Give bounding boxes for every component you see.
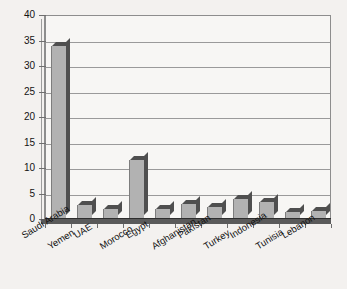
y-axis-tick-label: 35 <box>24 36 35 46</box>
bar-side-face <box>248 191 252 215</box>
bar[interactable] <box>129 160 144 219</box>
bar-side-face <box>170 201 174 215</box>
y-axis-tick-label: 10 <box>24 163 35 173</box>
bar-side-face <box>118 201 122 215</box>
y-axis-tick-label: 5 <box>29 189 35 199</box>
bar-slot <box>51 15 65 219</box>
bar-slot <box>155 15 169 219</box>
y-axis-tick-label: 25 <box>24 87 35 97</box>
bar-side-face <box>92 197 96 215</box>
bar-chart: 0510152025303540 Saudi ArabiaYemenUAEMor… <box>0 0 347 289</box>
bar-slot <box>233 15 247 219</box>
bar-slot <box>181 15 195 219</box>
bar-slot <box>207 15 221 219</box>
bar-side-face <box>144 152 148 215</box>
y-axis-tick-label: 40 <box>24 10 35 20</box>
bar-side-face <box>300 204 304 215</box>
bar-side-face <box>326 203 330 215</box>
bar-slot <box>77 15 91 219</box>
bar[interactable] <box>77 205 92 219</box>
bar-side-face <box>196 196 200 215</box>
bars-layer <box>45 15 331 219</box>
y-axis-tick-label: 20 <box>24 112 35 122</box>
bar-slot <box>259 15 273 219</box>
bar-side-face <box>66 38 70 215</box>
bar[interactable] <box>233 199 248 219</box>
bar-side-face <box>222 199 226 215</box>
bar-slot <box>285 15 299 219</box>
bar-slot <box>129 15 143 219</box>
bar[interactable] <box>51 46 66 219</box>
bar-slot <box>311 15 325 219</box>
y-axis-tick-label: 15 <box>24 138 35 148</box>
x-axis-labels: Saudi ArabiaYemenUAEMoroccoEgyptAfghanis… <box>0 228 347 289</box>
bar-slot <box>103 15 117 219</box>
y-axis-tick-label: 30 <box>24 61 35 71</box>
bar-side-face <box>274 194 278 215</box>
